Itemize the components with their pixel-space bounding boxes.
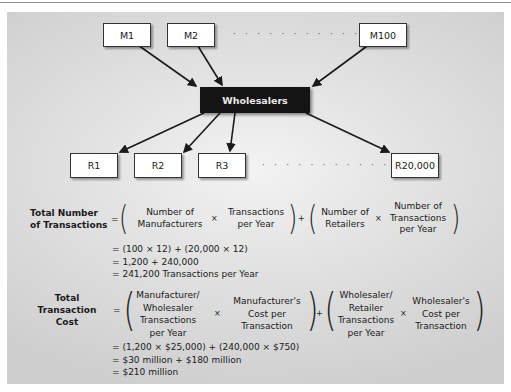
flow-arrows bbox=[0, 0, 511, 392]
term-line: per Year bbox=[132, 327, 204, 340]
term-line: Transactions bbox=[222, 207, 290, 219]
equals-sign: = bbox=[113, 305, 121, 315]
term-line: Wholesaler/ bbox=[332, 289, 400, 302]
term-line: Wholesaler bbox=[132, 302, 204, 315]
term-line: Manufacturer's bbox=[226, 295, 308, 308]
close-paren: ) bbox=[451, 201, 460, 235]
close-paren: ) bbox=[288, 201, 297, 235]
times-sign: × bbox=[400, 309, 407, 318]
term-manufacturer-wholesaler-transactions: Manufacturer/ Wholesaler Transactions pe… bbox=[132, 289, 204, 339]
term-line: per Year bbox=[385, 224, 451, 236]
calc-step: = $210 million bbox=[112, 366, 299, 379]
equals-sign: = bbox=[111, 214, 119, 224]
manufacturer-node-m1: M1 bbox=[103, 23, 151, 47]
manufacturer-ellipsis: · · · · · · · · · · · · bbox=[233, 29, 372, 39]
calc-step: = 241,200 Transactions per Year bbox=[112, 268, 258, 281]
label-line: Total bbox=[32, 292, 102, 304]
plus-sign: + bbox=[298, 214, 305, 223]
open-paren: ( bbox=[119, 201, 128, 235]
term-manufacturer-cost-per-transaction: Manufacturer's Cost per Transaction bbox=[226, 295, 308, 333]
term-line: Number of bbox=[316, 207, 374, 219]
calc-step: = (100 × 12) + (20,000 × 12) bbox=[112, 243, 258, 256]
retailer-node-r20000: R20,000 bbox=[391, 153, 439, 178]
term-line: per Year bbox=[222, 219, 290, 231]
term-retailer-transactions-per-year: Number of Transactions per Year bbox=[385, 201, 451, 236]
term-transactions-per-year: Transactions per Year bbox=[222, 207, 290, 230]
wholesalers-hub: Wholesalers bbox=[200, 87, 310, 113]
manufacturer-node-m2: M2 bbox=[167, 23, 215, 47]
cost-steps: = (1,200 × $25,000) + (240,000 × $750) =… bbox=[112, 341, 299, 379]
transactions-steps: = (100 × 12) + (20,000 × 12) = 1,200 + 2… bbox=[112, 243, 258, 281]
term-line: Transaction bbox=[226, 320, 308, 333]
times-sign: × bbox=[375, 214, 382, 223]
term-number-of-manufacturers: Number of Manufacturers bbox=[130, 207, 210, 230]
term-line: Transactions bbox=[332, 314, 400, 327]
term-number-of-retailers: Number of Retailers bbox=[316, 207, 374, 230]
times-sign: × bbox=[214, 309, 221, 318]
calc-step: = (1,200 × $25,000) + (240,000 × $750) bbox=[112, 341, 299, 354]
term-line: Cost per bbox=[410, 308, 472, 321]
term-line: Wholesaler's bbox=[410, 295, 472, 308]
term-line: Retailers bbox=[316, 219, 374, 231]
retailer-node-r3: R3 bbox=[198, 153, 246, 178]
label-line: Transaction bbox=[32, 304, 102, 316]
retailer-node-r1: R1 bbox=[70, 153, 118, 178]
manufacturer-node-m100: M100 bbox=[359, 23, 407, 47]
formula-cost-label: Total Transaction Cost bbox=[32, 292, 102, 328]
times-sign: × bbox=[211, 214, 218, 223]
term-line: Number of bbox=[130, 207, 210, 219]
formula-transactions-label: Total Number of Transactions bbox=[30, 207, 110, 231]
term-line: Cost per bbox=[226, 308, 308, 321]
term-line: per Year bbox=[332, 327, 400, 340]
label-line: of Transactions bbox=[30, 219, 110, 231]
plus-sign: + bbox=[316, 309, 323, 318]
term-line: Transaction bbox=[410, 320, 472, 333]
term-line: Manufacturers bbox=[130, 219, 210, 231]
calc-step: = $30 million + $180 million bbox=[112, 354, 299, 367]
term-wholesaler-retailer-transactions: Wholesaler/ Retailer Transactions per Ye… bbox=[332, 289, 400, 339]
retailer-node-r2: R2 bbox=[134, 153, 182, 178]
term-line: Number of bbox=[385, 201, 451, 213]
label-line: Total Number bbox=[30, 207, 110, 219]
close-paren: ) bbox=[474, 288, 486, 332]
label-line: Cost bbox=[32, 316, 102, 328]
term-wholesaler-cost-per-transaction: Wholesaler's Cost per Transaction bbox=[410, 295, 472, 333]
term-line: Transactions bbox=[385, 213, 451, 225]
term-line: Manufacturer/ bbox=[132, 289, 204, 302]
calc-step: = 1,200 + 240,000 bbox=[112, 256, 258, 269]
retailer-ellipsis: · · · · · · · · · · · · bbox=[262, 160, 401, 170]
term-line: Retailer bbox=[332, 302, 400, 315]
term-line: Transactions bbox=[132, 314, 204, 327]
